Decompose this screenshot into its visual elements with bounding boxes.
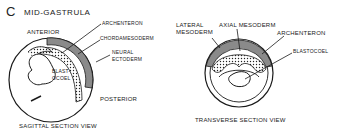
label-blastocoel-line2: OCOEL <box>52 76 71 81</box>
label-chordamesoderm: CHORDAMESODERM <box>100 36 154 41</box>
leader-archenteron <box>262 36 284 54</box>
caption-sagittal: SAGITTAL SECTION VIEW <box>19 123 97 129</box>
caption-transverse: TRANSVERSE SECTION VIEW <box>195 117 286 123</box>
label-blastocoel-line1: BLAST- <box>52 69 70 74</box>
label-anterior: ANTERIOR <box>27 29 60 35</box>
label-archenteron: ARCHENTERON <box>277 30 326 36</box>
label-neural: NEURAL <box>112 50 133 55</box>
label-ectoderm: ECTODERM <box>112 57 142 62</box>
label-blastocoel: BLASTOCOEL <box>293 49 328 54</box>
leader-archenteron <box>62 24 101 53</box>
label-posterior: POSTERIOR <box>100 96 137 102</box>
label-axial-mesoderm: AXIAL MESODERM <box>219 22 276 28</box>
transverse-section-drawing <box>205 29 292 107</box>
figure-title: MID-GASTRULA <box>24 9 90 17</box>
label-lateral: LATERAL <box>176 22 204 28</box>
panel-letter: C <box>6 5 16 19</box>
label-archenteron: ARCHENTERON <box>102 21 143 26</box>
leader-lateral-mesoderm <box>212 38 220 48</box>
mid-gastrula-diagram <box>0 0 337 137</box>
leader-neural-ectoderm <box>96 55 110 62</box>
label-mesoderm: MESODERM <box>176 29 213 35</box>
leader-chordamesoderm <box>78 40 100 54</box>
